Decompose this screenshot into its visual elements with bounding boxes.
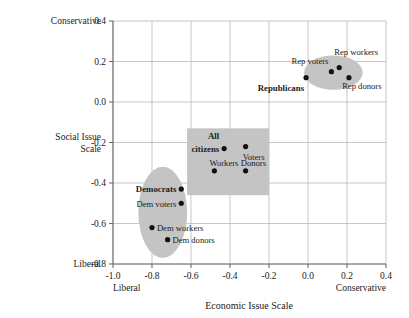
x-axis-high-label: Conservative	[336, 283, 386, 293]
x-tick-label: -0.4	[222, 271, 237, 281]
x-axis-title: Economic Issue Scale	[205, 300, 293, 311]
data-point	[243, 168, 248, 173]
y-axis-title-line2: Scale	[80, 144, 101, 154]
point-label: Dem workers	[157, 223, 204, 233]
chart-container: -1.0-0.8-0.6-0.4-0.20.00.20.40.40.20.0-0…	[0, 0, 409, 318]
y-axis-low-label: Liberal	[74, 259, 102, 269]
x-tick-label: 0.4	[380, 271, 392, 281]
x-tick-label: -0.6	[183, 271, 198, 281]
point-label: Dem donors	[172, 235, 215, 245]
data-point	[346, 75, 351, 80]
data-point	[165, 237, 170, 242]
y-tick-label: 0.2	[94, 57, 106, 67]
point-label: Rep voters	[291, 56, 329, 66]
point-label: Republicans	[258, 83, 305, 93]
data-point	[179, 186, 184, 191]
point-label: Democrats	[136, 184, 177, 194]
data-point	[222, 146, 227, 151]
x-axis-low-label: Liberal	[113, 283, 141, 293]
point-label: All	[208, 131, 220, 141]
scatter-plot-svg: -1.0-0.8-0.6-0.4-0.20.00.20.40.40.20.0-0…	[0, 0, 409, 318]
point-label: Donors	[241, 158, 267, 168]
x-tick-label: 0.0	[302, 271, 314, 281]
x-tick-label: -0.8	[144, 271, 159, 281]
y-tick-label: -0.6	[91, 219, 106, 229]
y-axis-title-line1: Social Issue	[55, 132, 101, 142]
x-tick-label: 0.2	[341, 271, 353, 281]
point-label: Workers	[210, 158, 240, 168]
x-tick-label: -0.2	[261, 271, 276, 281]
point-label: Rep workers	[334, 47, 378, 57]
point-label: Rep donors	[342, 81, 382, 91]
data-point	[243, 144, 248, 149]
y-axis-high-label: Conservative	[51, 16, 101, 26]
data-point	[329, 69, 334, 74]
x-tick-label: -1.0	[105, 271, 120, 281]
data-point	[212, 168, 217, 173]
y-tick-label: -0.4	[91, 178, 106, 188]
point-label: citizens	[191, 144, 219, 154]
data-point	[303, 75, 308, 80]
data-point	[179, 201, 184, 206]
point-label: Dem voters	[137, 199, 178, 209]
y-tick-label: 0.0	[94, 97, 106, 107]
data-point	[337, 65, 342, 70]
data-point	[149, 225, 154, 230]
